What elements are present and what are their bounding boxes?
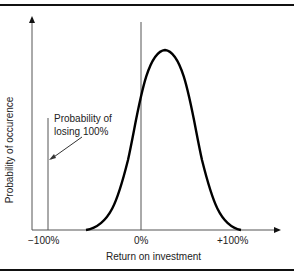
tick-zero: 0% [134,235,148,246]
annotation-arrow [51,137,82,159]
y-axis-label: Probability of occurence [4,97,15,204]
x-axis-label: Return on investment [106,251,201,262]
tick-neg-100: −100% [28,235,59,246]
annotation-line-1: Probability of [54,112,112,125]
x-axis-arrow-icon [274,227,281,233]
chart-canvas [0,0,294,273]
y-axis-arrow-icon [29,16,35,23]
annotation-text: Probability of losing 100% [54,112,112,138]
tick-pos-100: +100% [217,235,248,246]
annotation-line-2: losing 100% [54,125,112,138]
annotation-arrowhead-icon [49,154,56,160]
bell-curve [86,50,241,230]
